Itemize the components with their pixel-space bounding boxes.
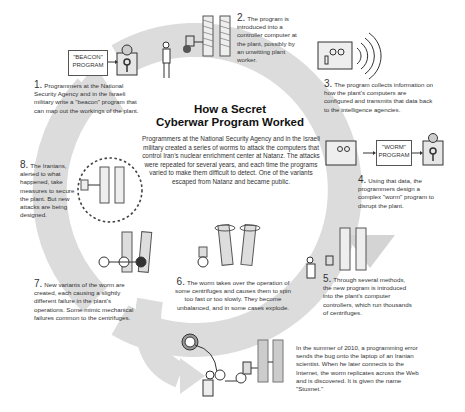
title-line-2: Cyberwar Program Worked bbox=[130, 116, 330, 129]
variant-centrifuges-icon bbox=[99, 232, 152, 273]
computer-icon bbox=[186, 36, 194, 46]
step-6: 6.The worm takes over the operation of s… bbox=[174, 278, 292, 312]
step-7: 7.New variants of the worm are created, … bbox=[34, 280, 139, 322]
step-2: 2.The program is introduced into a contr… bbox=[237, 14, 297, 64]
step-8: 8.The Iranians, alerted to what happened… bbox=[20, 161, 76, 219]
data-document-icon bbox=[318, 42, 352, 69]
exploding-centrifuges-icon bbox=[198, 224, 260, 267]
step-text: Programmers at the National Security Age… bbox=[34, 82, 139, 114]
title-line-1: How a Secret bbox=[130, 103, 330, 116]
controller-lock-icon-2 bbox=[423, 134, 443, 166]
step-number: 1. bbox=[34, 79, 42, 90]
step-number: 6. bbox=[177, 276, 185, 287]
step-text: Through several methods, the new program… bbox=[323, 276, 412, 316]
step-text: The worm takes over the operation of som… bbox=[175, 279, 291, 311]
step-text: New variants of the worm are created, ea… bbox=[34, 281, 133, 321]
step-text: The program is introduced into a control… bbox=[237, 15, 297, 63]
step-number: 3. bbox=[324, 78, 332, 89]
beacon-program-box: "BEACON" PROGRAM bbox=[68, 50, 108, 76]
step-text: The Iranians, alerted to what happened, … bbox=[20, 162, 74, 218]
step-number: 4. bbox=[358, 174, 366, 185]
step-3: 3.The program collects information on ho… bbox=[324, 80, 434, 114]
step-1: 1.Programmers at the National Security A… bbox=[34, 81, 140, 115]
data-document-icon-2 bbox=[326, 141, 356, 165]
worm-program-box: "WORM" PROGRAM bbox=[376, 140, 412, 166]
step-4: 4.Using that data, the programmers desig… bbox=[358, 176, 438, 210]
intro-paragraph: Programmers at the National Security Age… bbox=[137, 135, 325, 186]
escape-note: In the summer of 2010, a programming err… bbox=[296, 344, 426, 393]
step-5: 5.Through several methods, the new progr… bbox=[323, 275, 413, 317]
transmit-signal-icon bbox=[357, 33, 381, 79]
step-number: 7. bbox=[34, 278, 42, 289]
step-text: Using that data, the programmers design … bbox=[358, 177, 434, 209]
escape-arrow-icon bbox=[180, 358, 205, 394]
step-number: 8. bbox=[20, 159, 28, 170]
page-title: How a Secret Cyberwar Program Worked bbox=[130, 103, 330, 129]
step-number: 2. bbox=[237, 12, 245, 23]
step-text: The program collects information on how … bbox=[324, 81, 433, 113]
step-number: 5. bbox=[323, 273, 331, 284]
